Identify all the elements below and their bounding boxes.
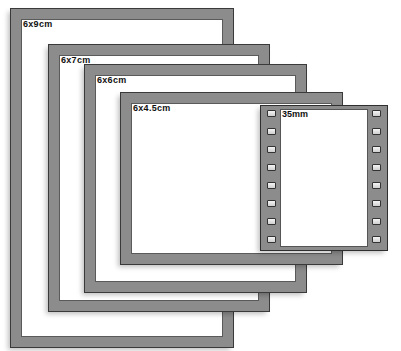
sprocket-hole-icon — [267, 110, 276, 117]
sprocket-hole-icon — [267, 218, 276, 225]
frame-label-6x7: 6x7cm — [61, 55, 91, 65]
film-35mm: 35mm — [261, 106, 387, 250]
frame-label-35mm: 35mm — [282, 109, 308, 119]
frame-label-6x9: 6x9cm — [23, 19, 53, 29]
sprocket-hole-icon — [372, 218, 381, 225]
sprocket-hole-icon — [267, 128, 276, 135]
sprocket-hole-icon — [372, 200, 381, 207]
film-35mm-window — [280, 109, 368, 247]
sprocket-hole-icon — [267, 146, 276, 153]
sprocket-hole-icon — [267, 164, 276, 171]
frame-label-6x6: 6x6cm — [97, 75, 127, 85]
sprocket-hole-icon — [372, 182, 381, 189]
sprocket-hole-icon — [372, 110, 381, 117]
sprocket-hole-icon — [372, 236, 381, 243]
frame-label-6x4-5: 6x4.5cm — [133, 103, 171, 113]
format-diagram: 6x9cm 6x7cm 6x6cm 6x4.5cm 35mm — [0, 0, 401, 351]
sprocket-hole-icon — [267, 236, 276, 243]
sprocket-hole-icon — [267, 182, 276, 189]
sprocket-hole-icon — [372, 164, 381, 171]
sprocket-hole-icon — [372, 128, 381, 135]
sprocket-hole-icon — [267, 200, 276, 207]
sprocket-hole-icon — [372, 146, 381, 153]
